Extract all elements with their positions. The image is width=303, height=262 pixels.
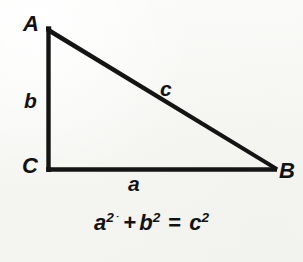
vertex-label-a: A [23,13,39,35]
equation-equals-sign: = [168,210,181,235]
equation-plus-sign: + [123,210,136,235]
equation-ink-speck: ˙ [116,215,120,226]
vertex-label-b: B [279,160,295,182]
equation-c-base: c [189,210,201,235]
pythagorean-equation: a2˙+b2=c2 [0,212,303,234]
equation-a-base: a [94,210,106,235]
vertex-a-corner-fill [46,26,51,31]
vertex-label-c: C [22,155,38,177]
side-label-a: a [128,173,140,194]
equation-term-b: b2 [139,210,160,235]
equation-c-exponent: 2 [201,210,209,225]
equation-a-exponent: 2 [106,210,114,225]
vertex-c-corner-fill [46,167,51,172]
side-label-c: c [160,78,172,99]
figure-canvas: A C B b c a a2˙+b2=c2 [0,0,303,262]
equation-b-exponent: 2 [153,210,161,225]
side-label-b: b [24,90,37,111]
equation-term-c: c2 [189,210,209,235]
equation-term-a: a2 [94,210,114,235]
equation-b-base: b [139,210,152,235]
